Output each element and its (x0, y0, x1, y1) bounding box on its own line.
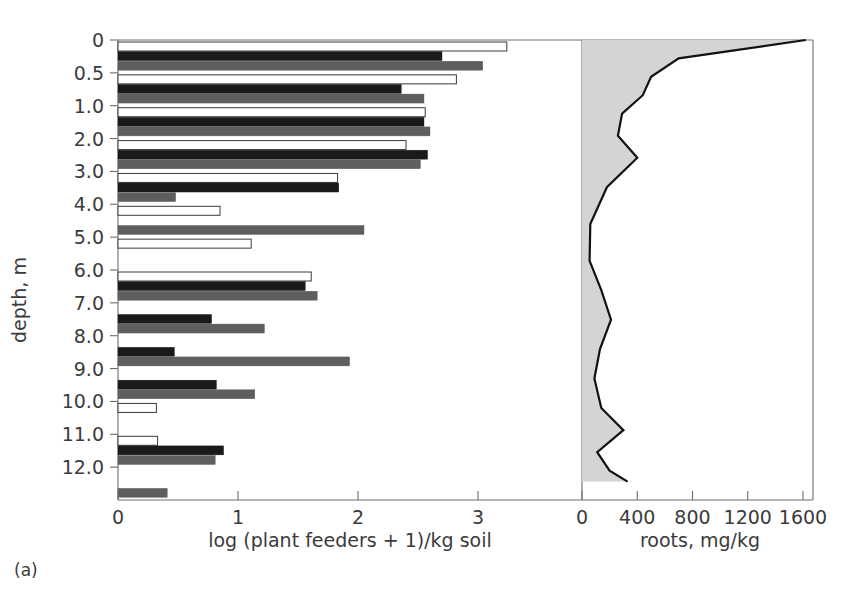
y-tick-label: 6.0 (74, 259, 104, 281)
bar-white (118, 403, 156, 412)
y-tick-label: 3.0 (74, 160, 104, 182)
y-tick-label: 11.0 (62, 423, 104, 445)
left-x-axis-title: log (plant feeders + 1)/kg soil (208, 529, 492, 551)
bar-black (118, 84, 401, 93)
left-x-tick-label: 0 (112, 506, 124, 528)
right-x-tick-label: 1200 (724, 506, 772, 528)
bar-white (118, 141, 406, 150)
y-tick-label: 10.0 (62, 390, 104, 412)
figure-panel-a: 00.51.02.03.04.05.06.07.08.09.010.011.01… (0, 0, 854, 603)
y-axis-title: depth, m (8, 257, 30, 343)
bar-black (118, 446, 224, 455)
bar-white (118, 173, 338, 182)
bar-black (118, 183, 339, 192)
y-tick-label: 0 (92, 29, 104, 51)
y-tick-label: 2.0 (74, 128, 104, 150)
bar-gray (118, 160, 420, 169)
bar-gray (118, 455, 215, 464)
left-x-tick-label: 2 (352, 506, 364, 528)
y-tick-label: 7.0 (74, 292, 104, 314)
bar-black (118, 314, 212, 323)
figure-caption: (a) (14, 560, 38, 580)
bar-gray (118, 94, 424, 103)
y-tick-label: 5.0 (74, 226, 104, 248)
right-x-axis-title: roots, mg/kg (640, 529, 760, 551)
bar-gray (118, 357, 350, 366)
left-x-tick-label: 1 (232, 506, 244, 528)
y-tick-label: 12.0 (62, 456, 104, 478)
y-tick-label: 0.5 (74, 62, 104, 84)
bar-black (118, 117, 424, 126)
right-x-tick-label: 400 (619, 506, 655, 528)
bar-white (118, 42, 507, 51)
bar-white (118, 436, 158, 445)
left-x-tick-label: 3 (472, 506, 484, 528)
y-tick-label: 8.0 (74, 325, 104, 347)
bar-gray (118, 193, 176, 202)
bar-white (118, 75, 456, 84)
soil-depth-profile-chart: 00.51.02.03.04.05.06.07.08.09.010.011.01… (0, 0, 854, 603)
right-x-tick-label: 1600 (779, 506, 827, 528)
bar-gray (118, 324, 264, 333)
y-tick-label: 1.0 (74, 95, 104, 117)
bar-black (118, 150, 428, 159)
y-tick-label: 4.0 (74, 193, 104, 215)
bar-black (118, 347, 174, 356)
bar-gray (118, 291, 317, 300)
bar-white (118, 272, 311, 281)
bar-white (118, 108, 425, 117)
bar-white (118, 206, 220, 215)
bar-black (118, 282, 305, 291)
bar-black (118, 380, 216, 389)
bar-gray (118, 61, 483, 70)
bar-gray (118, 225, 364, 234)
bar-white (118, 239, 251, 248)
right-x-tick-label: 0 (576, 506, 588, 528)
bar-black (118, 52, 442, 61)
bar-gray (118, 488, 167, 497)
bar-gray (118, 127, 430, 136)
right-x-tick-label: 800 (674, 506, 710, 528)
y-tick-label: 9.0 (74, 358, 104, 380)
bar-gray (118, 390, 255, 399)
